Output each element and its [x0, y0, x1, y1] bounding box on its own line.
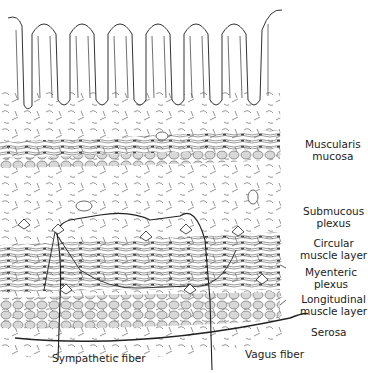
- label-muscularis-mucosa: Muscularis mucosa: [305, 138, 361, 162]
- label-line-1: Longitudinal: [300, 293, 367, 305]
- label-line-2: plexus: [305, 278, 357, 290]
- label-serosa: Serosa: [311, 326, 347, 338]
- label-sympathetic-fiber: Sympathetic fiber: [52, 352, 146, 364]
- label-line-1: Circular: [300, 237, 367, 249]
- label-line-1: Submucous: [303, 205, 364, 217]
- label-submucous-plexus: Submucous plexus: [303, 205, 364, 229]
- label-line-2: muscle layer: [300, 305, 367, 317]
- label-vagus-fiber: Vagus fiber: [245, 348, 304, 360]
- label-line-2: mucosa: [305, 150, 361, 162]
- label-circular-muscle-layer: Circular muscle layer: [300, 237, 367, 261]
- label-longitudinal-muscle-layer: Longitudinal muscle layer: [300, 293, 367, 317]
- intestinal-wall-illustration: [0, 0, 368, 373]
- label-myenteric-plexus: Myenteric plexus: [305, 266, 357, 290]
- label-line-2: muscle layer: [300, 249, 367, 261]
- label-line-1: Muscularis: [305, 138, 361, 150]
- label-line-2: plexus: [303, 217, 364, 229]
- label-line-1: Myenteric: [305, 266, 357, 278]
